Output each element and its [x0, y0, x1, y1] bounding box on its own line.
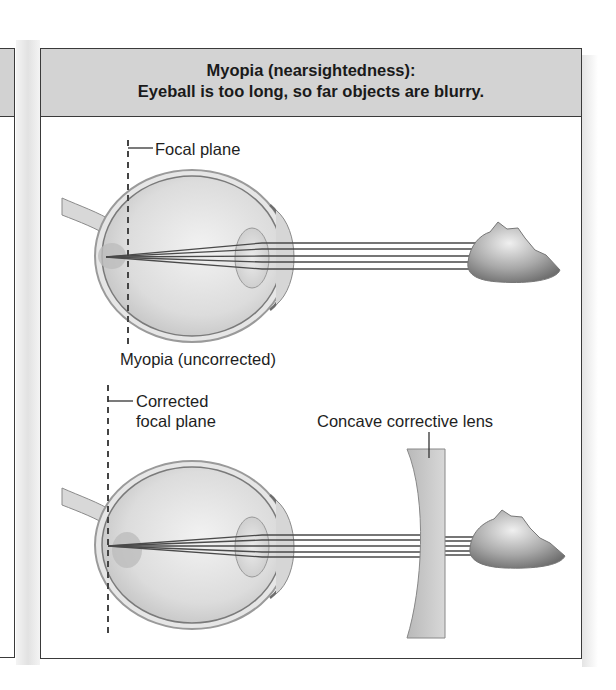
distant-mountain-icon — [468, 222, 560, 283]
uncorrected-caption: Myopia (uncorrected) — [120, 349, 276, 369]
corrected-focal-label-line1: Corrected — [136, 391, 208, 411]
distant-mountain-icon — [470, 510, 565, 568]
concave-lens-label: Concave corrective lens — [317, 411, 493, 431]
corrected-focal-label-line2: focal plane — [136, 411, 216, 431]
myopia-illustration — [0, 0, 616, 690]
concave-lens-icon — [407, 449, 445, 638]
eye-corrected — [62, 461, 294, 629]
focal-plane-label: Focal plane — [155, 139, 240, 159]
macula-icon — [112, 532, 142, 568]
